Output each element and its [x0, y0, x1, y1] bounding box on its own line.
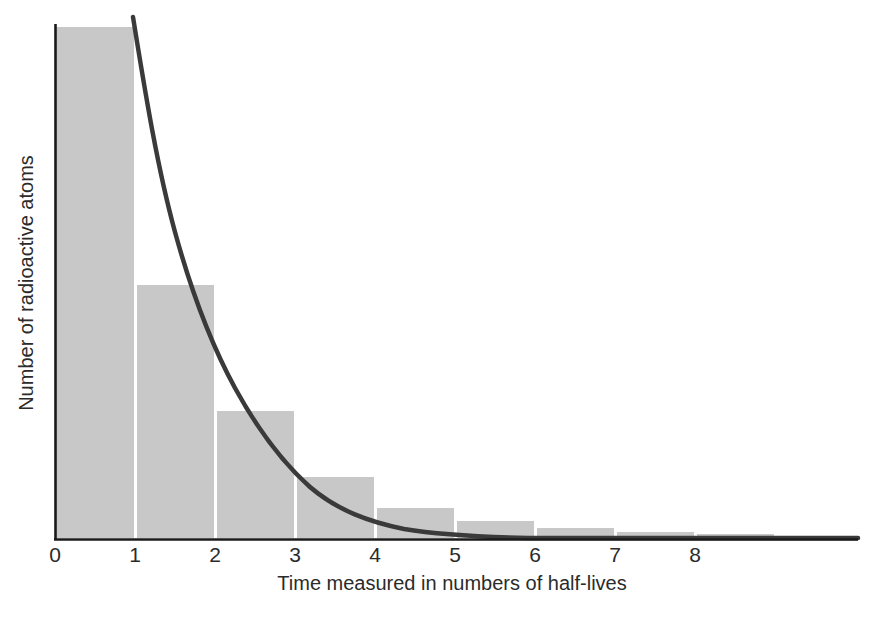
chart-canvas: 0 1 2 3 4 5 6 7 8 Time measured in numbe… [0, 0, 872, 618]
x-tick-label-6: 6 [529, 543, 541, 566]
x-tick-label-2: 2 [209, 543, 221, 566]
y-axis-title: Number of radioactive atoms [15, 155, 37, 411]
bar-0 [55, 27, 135, 538]
x-tick-label-8: 8 [689, 543, 701, 566]
decay-chart: 0 1 2 3 4 5 6 7 8 Time measured in numbe… [0, 0, 872, 618]
x-tick-label-5: 5 [449, 543, 461, 566]
x-tick-label-7: 7 [609, 543, 621, 566]
x-tick-label-4: 4 [369, 543, 381, 566]
bar-2 [216, 411, 295, 538]
x-tick-label-3: 3 [289, 543, 301, 566]
x-tick-label-1: 1 [129, 543, 141, 566]
x-tick-label-0: 0 [49, 543, 61, 566]
x-axis-title: Time measured in numbers of half-lives [277, 572, 626, 594]
